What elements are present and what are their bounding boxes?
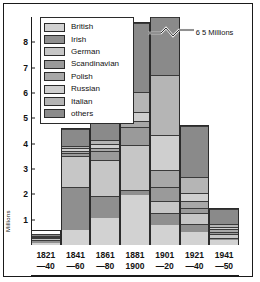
x-label-line-top: 1941 (209, 250, 239, 261)
y-tick-label-8: 8 (23, 38, 28, 47)
y-tick-mark-5 (31, 118, 35, 119)
legend-item-italian[interactable]: Italian (44, 95, 130, 107)
y-tick-label-2: 2 (23, 190, 28, 199)
legend-swatch-british (44, 23, 65, 32)
y-tick-mark-8 (31, 42, 35, 43)
legend-label: German (71, 48, 100, 56)
legend-item-polish[interactable]: Polish (44, 71, 130, 83)
x-axis-label-1841—60: 1841—60 (61, 250, 91, 272)
legend-swatch-others (44, 109, 65, 118)
x-label-line-bottom: —40 (31, 261, 61, 272)
legend: BritishIrishGermanScandinavianPolishRuss… (40, 17, 134, 124)
legend-label: Polish (71, 73, 93, 81)
y-tick-label-3: 3 (23, 165, 28, 174)
y-axis-label: Millions (5, 210, 11, 232)
bar-segment-irish (151, 213, 179, 225)
legend-label: others (71, 110, 93, 118)
legend-item-german[interactable]: German (44, 46, 130, 58)
x-axis-label-1821—40: 1821—40 (31, 250, 61, 272)
bar-segment-german (91, 160, 119, 196)
bar-1921—40[interactable] (180, 125, 210, 245)
x-label-line-bottom: —20 (150, 261, 180, 272)
bar-1841—60[interactable] (61, 128, 91, 245)
bar-segment-polish (181, 201, 209, 208)
bar-segment-irish (181, 224, 209, 232)
legend-item-scandinavian[interactable]: Scandinavian (44, 58, 130, 70)
y-tick-mark-2 (31, 194, 35, 195)
x-label-line-bottom: —60 (61, 261, 91, 272)
legend-label: Russian (71, 85, 100, 93)
y-tick-label-7: 7 (23, 63, 28, 72)
bar-1821—40[interactable] (31, 230, 61, 245)
bar-segment-others (62, 129, 90, 146)
bar-segment-scandinavian (151, 187, 179, 201)
x-axis-label-1901—20: 1901—20 (150, 250, 180, 272)
y-tick-label-4: 4 (23, 139, 28, 148)
value-annotation: 6 5 Millions (196, 28, 234, 37)
bar-segment-irish (91, 196, 119, 218)
legend-item-russian[interactable]: Russian (44, 83, 130, 95)
x-axis-label-1921—40: 1921—40 (180, 250, 210, 272)
legend-label: Scandinavian (71, 60, 119, 68)
legend-label: British (71, 23, 93, 31)
bar-segment-german (181, 213, 209, 224)
bar-segment-polish (151, 170, 179, 186)
bar-segment-british (62, 230, 90, 245)
x-axis-label-1941—50: 1941—50 (209, 250, 239, 272)
legend-label: Irish (71, 36, 86, 44)
legend-item-others[interactable]: others (44, 108, 130, 120)
legend-swatch-irish (44, 35, 65, 44)
bar-1861—80[interactable] (90, 111, 120, 245)
x-label-line-top: 1901 (150, 250, 180, 261)
bar-1941—50[interactable] (209, 208, 239, 245)
legend-item-irish[interactable]: Irish (44, 33, 130, 45)
bar-segment-british (151, 225, 179, 245)
x-label-line-top: 1821 (31, 250, 61, 261)
bar-1901—20[interactable] (150, 17, 180, 245)
bar-segment-italian (181, 177, 209, 193)
bar-segment-others (210, 209, 238, 224)
y-tick-mark-3 (31, 169, 35, 170)
bar-segment-russian (151, 135, 179, 170)
bar-segment-german (62, 156, 90, 188)
bar-segment-british (121, 195, 149, 245)
bar-segment-scandinavian (121, 127, 149, 144)
x-label-line-bottom: 1900 (120, 261, 150, 272)
legend-swatch-german (44, 47, 65, 56)
bar-segment-german (151, 201, 179, 213)
x-label-line-bottom: —80 (90, 261, 120, 272)
x-label-line-top: 1841 (61, 250, 91, 261)
legend-swatch-italian (44, 97, 65, 106)
x-label-line-top: 1861 (90, 250, 120, 261)
legend-label: Italian (71, 98, 92, 106)
x-axis-label-1861—80: 1861—80 (90, 250, 120, 272)
x-label-line-bottom: —40 (180, 261, 210, 272)
x-label-line-top: 1921 (180, 250, 210, 261)
bar-segment-russian (181, 193, 209, 201)
axis-break-icon (148, 25, 194, 39)
bar-segment-irish (62, 187, 90, 229)
bar-segment-others (181, 126, 209, 178)
legend-swatch-polish (44, 72, 65, 81)
bar-segment-italian (151, 75, 179, 135)
legend-item-british[interactable]: British (44, 21, 130, 33)
y-tick-mark-7 (31, 67, 35, 68)
bar-segment-scandinavian (91, 151, 119, 160)
legend-swatch-scandinavian (44, 60, 65, 69)
bar-segment-british (181, 232, 209, 245)
chart-frame: 12345678 6 5 Millions Millions BritishIr… (3, 3, 253, 277)
bar-segment-german (121, 145, 149, 190)
bar-segment-british (210, 240, 238, 245)
x-label-line-top: 1881 (120, 250, 150, 261)
y-tick-mark-1 (31, 219, 35, 220)
x-label-line-bottom: —50 (209, 261, 239, 272)
y-tick-mark-4 (31, 143, 35, 144)
y-tick-label-6: 6 (23, 89, 28, 98)
x-axis-label-1881—1900: 18811900 (120, 250, 150, 272)
bar-segment-british (32, 243, 60, 245)
x-axis: 1821—401841—601861—80188119001901—201921… (31, 247, 239, 277)
y-tick-label-1: 1 (23, 215, 28, 224)
y-tick-label-5: 5 (23, 114, 28, 123)
bar-segment-british (91, 218, 119, 245)
legend-swatch-russian (44, 85, 65, 94)
